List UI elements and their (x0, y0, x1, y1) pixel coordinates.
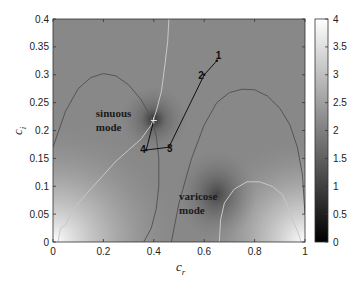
y-tick-label: 0.1 (35, 181, 49, 192)
y-axis-label: ci (10, 126, 28, 135)
x-tick-label: 1 (302, 246, 308, 257)
heatmap-chart: 1234 sinuousmodevaricosemode 00.20.40.60… (0, 0, 359, 289)
y-tick-label: 0.2 (35, 125, 49, 136)
annotation-label: mode (179, 204, 205, 216)
y-tick-label: 0.25 (30, 97, 50, 108)
trajectory-point-label: 3 (167, 143, 173, 154)
annotation-label: mode (96, 121, 122, 133)
annotation-label: sinuous (96, 107, 132, 119)
x-tick-label: 0.4 (147, 246, 161, 257)
y-tick-label: 0.3 (35, 69, 49, 80)
colorbar-tick-label: 4 (333, 14, 339, 25)
y-tick-label: 0.15 (30, 153, 50, 164)
colorbar-tick-label: 0 (333, 237, 339, 248)
y-tick-label: 0.05 (30, 209, 50, 220)
trajectory-point-label: 1 (216, 50, 222, 61)
y-tick-label: 0.35 (30, 41, 50, 52)
colorbar-tick-label: 1 (333, 181, 339, 192)
x-tick-label: 0 (50, 246, 56, 257)
x-tick-label: 0.2 (96, 246, 110, 257)
y-tick-label: 0.4 (35, 14, 49, 25)
colorbar-tick-label: 0.5 (333, 209, 347, 220)
colorbar-tick-label: 2 (333, 125, 339, 136)
annotation-label: varicose (179, 190, 218, 202)
trajectory-point-label: 4 (140, 144, 146, 155)
trajectory-point-label: 2 (198, 70, 204, 81)
x-axis-label: cr (176, 259, 186, 277)
x-tick-label: 0.6 (197, 246, 211, 257)
heatmap-field: 1234 sinuousmodevaricosemode (53, 19, 305, 242)
y-tick-label: 0 (43, 237, 49, 248)
colorbar-tick-label: 3.5 (333, 41, 347, 52)
x-tick-label: 0.8 (248, 246, 262, 257)
colorbar-tick-label: 1.5 (333, 153, 347, 164)
colorbar-tick-label: 3 (333, 69, 339, 80)
colorbar-tick-label: 2.5 (333, 97, 347, 108)
